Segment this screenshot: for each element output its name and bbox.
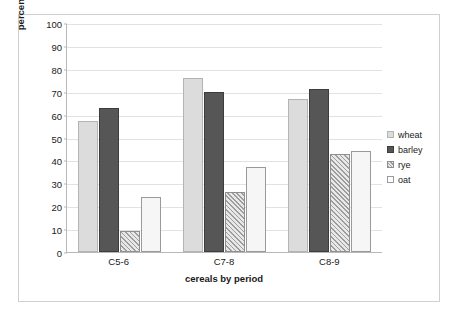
bar-barley-C8-9[interactable]: [309, 89, 329, 252]
x-axis-title: cereals by period: [66, 273, 382, 284]
y-axis-tick-label: 0: [57, 248, 62, 259]
legend-swatch-wheat: [387, 131, 394, 138]
x-axis-tick-label-C7-8: C7-8: [171, 256, 276, 267]
legend-label-oat: oat: [398, 175, 411, 185]
bar-group: [172, 24, 277, 252]
legend-item-wheat[interactable]: wheat: [387, 127, 441, 142]
y-axis-tick-label: 70: [51, 87, 62, 98]
y-axis-tick-label: 50: [51, 133, 62, 144]
bar-rye-C8-9[interactable]: [330, 154, 350, 252]
y-axis-tick-label: 80: [51, 64, 62, 75]
chart-figure: percentage samples where present 0102030…: [18, 14, 440, 302]
bar-slot: [288, 99, 308, 252]
gridline: [67, 253, 382, 254]
y-axis-tick-label: 100: [46, 19, 62, 30]
bar-slot: [99, 108, 119, 252]
y-axis-tick-label: 20: [51, 202, 62, 213]
bar-wheat-C8-9[interactable]: [288, 99, 308, 252]
legend-item-barley[interactable]: barley: [387, 142, 441, 157]
y-axis-tick-label: 40: [51, 156, 62, 167]
bar-slot: [225, 192, 245, 252]
bar-group: [67, 24, 172, 252]
bar-barley-C5-6[interactable]: [99, 108, 119, 252]
legend-swatch-oat: [387, 176, 394, 183]
bar-group: [277, 24, 382, 252]
bar-slot: [351, 151, 371, 252]
legend: wheatbarleyryeoat: [387, 127, 441, 187]
legend-label-wheat: wheat: [398, 130, 422, 140]
bar-wheat-C5-6[interactable]: [78, 121, 98, 252]
bar-oat-C8-9[interactable]: [351, 151, 371, 252]
y-axis-tick-label: 90: [51, 41, 62, 52]
x-axis-tick-label-C5-6: C5-6: [66, 256, 171, 267]
bar-wheat-C7-8[interactable]: [183, 78, 203, 252]
bar-slot: [78, 121, 98, 252]
legend-label-rye: rye: [398, 160, 411, 170]
legend-item-oat[interactable]: oat: [387, 172, 441, 187]
bar-barley-C7-8[interactable]: [204, 92, 224, 252]
x-axis-tick-labels: C5-6C7-8C8-9: [66, 256, 382, 267]
bar-slot: [246, 167, 266, 252]
legend-label-barley: barley: [398, 145, 423, 155]
bar-rye-C7-8[interactable]: [225, 192, 245, 252]
y-axis-title: percentage samples where present: [15, 0, 29, 51]
y-axis-tick-label: 10: [51, 225, 62, 236]
legend-swatch-barley: [387, 146, 394, 153]
bar-slot: [309, 89, 329, 252]
legend-item-rye[interactable]: rye: [387, 157, 441, 172]
bar-rye-C5-6[interactable]: [120, 231, 140, 252]
y-axis-tick-label: 30: [51, 179, 62, 190]
bar-oat-C5-6[interactable]: [141, 197, 161, 252]
y-axis-tick-label: 60: [51, 110, 62, 121]
bar-slot: [120, 231, 140, 252]
bar-oat-C7-8[interactable]: [246, 167, 266, 252]
bar-slot: [183, 78, 203, 252]
bar-slot: [141, 197, 161, 252]
legend-swatch-rye: [387, 161, 394, 168]
bar-slot: [204, 92, 224, 252]
bar-groups: [67, 24, 382, 252]
y-axis-tickmark: [64, 253, 67, 254]
x-axis-tick-label-C8-9: C8-9: [277, 256, 382, 267]
bar-slot: [330, 154, 350, 252]
plot-area: 0102030405060708090100: [66, 24, 382, 253]
